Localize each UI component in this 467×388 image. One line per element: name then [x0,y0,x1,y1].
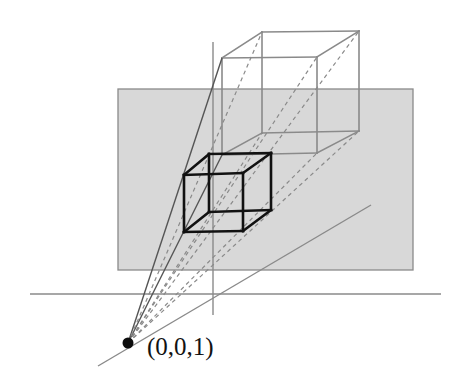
geometry-diagram: (0,0,1) [0,0,467,388]
figure-container: (0,0,1) [0,0,467,388]
eye-point-label: (0,0,1) [147,333,214,361]
cube-edge-back_top_left-back_top_right [209,153,271,154]
cube-edge-back_top_left-back_top_right [262,31,359,32]
projection-plane [118,89,413,270]
cube-edge-front_bottom_right-front_bottom_left [184,231,243,232]
cube-edge-front_top_left-front_top_right [222,57,317,58]
center-of-projection-dot [123,338,134,349]
